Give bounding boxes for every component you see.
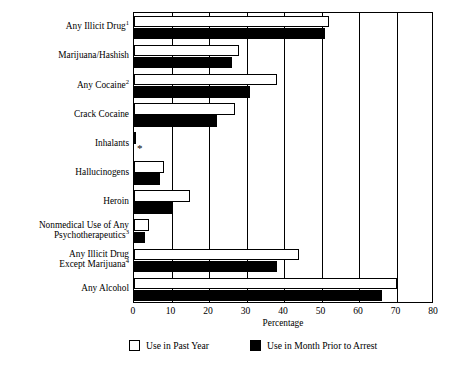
footnote-marker: 1 — [126, 19, 129, 26]
bar-prior-arrest — [134, 173, 160, 185]
bar-past-year — [134, 103, 235, 115]
suppressed-value-marker: * — [137, 143, 143, 154]
legend-swatch-past-year-icon — [129, 340, 140, 351]
bar-past-year — [134, 190, 190, 202]
bar-past-year — [134, 249, 299, 261]
bar-row — [134, 217, 432, 246]
bar-past-year — [134, 132, 136, 144]
category-label: Crack Cocaine — [0, 109, 129, 120]
bar-prior-arrest — [134, 261, 277, 273]
x-tick-label: 10 — [166, 305, 176, 316]
x-tick-label: 40 — [278, 305, 288, 316]
category-axis-labels: Any Illicit Drug1Marijuana/HashishAny Co… — [0, 12, 129, 303]
bar-chart-figure: Any Illicit Drug1Marijuana/HashishAny Co… — [0, 0, 449, 375]
x-tick-label: 80 — [428, 305, 438, 316]
category-label: Hallucinogens — [0, 167, 129, 178]
bar-prior-arrest — [134, 202, 172, 214]
legend-label-past-year: Use in Past Year — [146, 340, 209, 351]
category-label: Any Illicit DrugExcept Marijuana4 — [0, 249, 129, 270]
bar-row — [134, 100, 432, 129]
category-label: Inhalants — [0, 138, 129, 149]
bar-past-year — [134, 74, 277, 86]
footnote-marker: 2 — [126, 77, 129, 84]
bar-prior-arrest — [134, 57, 232, 69]
bar-past-year — [134, 45, 239, 57]
legend-swatch-prior-arrest-icon — [250, 340, 261, 351]
x-tick-label: 0 — [131, 305, 136, 316]
bar-row: * — [134, 129, 432, 158]
bar-prior-arrest — [134, 232, 145, 244]
bar-row — [134, 71, 432, 100]
x-tick-label: 70 — [391, 305, 401, 316]
category-label: Heroin — [0, 196, 129, 207]
bar-prior-arrest — [134, 28, 325, 40]
bar-past-year — [134, 16, 329, 28]
category-label: Any Cocaine2 — [0, 80, 129, 91]
bar-row — [134, 246, 432, 275]
x-axis-title: Percentage — [133, 318, 433, 328]
category-label: Nonmedical Use of AnyPsychotherapeutics3 — [0, 220, 129, 241]
bar-past-year — [134, 219, 149, 231]
bar-prior-arrest — [134, 115, 217, 127]
bar-row — [134, 159, 432, 188]
x-axis-tick-labels: 01020304050607080 — [133, 305, 433, 319]
legend-entry-past-year: Use in Past Year — [129, 340, 209, 351]
category-label: Marijuana/Hashish — [0, 50, 129, 61]
category-label: Any Alcohol — [0, 283, 129, 294]
bar-rows: * — [134, 13, 432, 302]
x-tick-label: 60 — [353, 305, 363, 316]
bar-row — [134, 188, 432, 217]
bar-row — [134, 13, 432, 42]
x-tick-label: 30 — [241, 305, 251, 316]
legend-entry-prior-arrest: Use in Month Prior to Arrest — [250, 340, 377, 351]
bar-row — [134, 42, 432, 71]
legend-label-prior-arrest: Use in Month Prior to Arrest — [267, 340, 377, 351]
bar-prior-arrest — [134, 290, 382, 302]
plot-area: * — [133, 12, 433, 303]
x-tick-label: 50 — [316, 305, 326, 316]
chart-legend: Use in Past Year Use in Month Prior to A… — [0, 340, 449, 362]
bar-prior-arrest — [134, 86, 250, 98]
bar-past-year — [134, 161, 164, 173]
footnote-marker: 4 — [126, 257, 129, 264]
footnote-marker: 3 — [126, 228, 129, 235]
x-tick-label: 20 — [203, 305, 213, 316]
bar-past-year — [134, 278, 397, 290]
bar-row — [134, 275, 432, 304]
category-label: Any Illicit Drug1 — [0, 21, 129, 32]
